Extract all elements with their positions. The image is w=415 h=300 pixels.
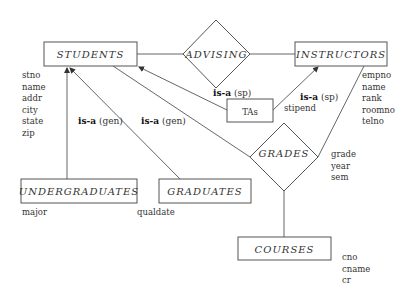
entity-tas[interactable]: TAs	[227, 99, 273, 122]
attr-rank: rank	[362, 93, 383, 103]
courses-attributes: cno cname cr	[342, 252, 370, 285]
er-diagram: STUDENTS stno name addr city state zip A…	[0, 0, 415, 300]
attr-year: year	[330, 161, 351, 171]
attr-major: major	[22, 207, 48, 217]
entity-students[interactable]: STUDENTS	[44, 42, 137, 66]
attr-grade: grade	[331, 149, 356, 159]
relationship-grades-label: GRADES	[259, 148, 310, 159]
attr-zip: zip	[22, 128, 35, 138]
entity-graduates[interactable]: GRADUATES	[159, 179, 251, 203]
isa-label-graduate: is-a (gen)	[141, 116, 186, 126]
attr-stipend: stipend	[284, 103, 316, 113]
entity-courses-label: COURSES	[255, 244, 315, 255]
entity-instructors-label: INSTRUCTORS	[295, 49, 386, 60]
instructors-attributes: empno name rank roomno telno	[362, 70, 395, 126]
relationship-grades[interactable]: GRADES	[250, 123, 318, 191]
isa-label-ta-students: is-a (sp)	[213, 88, 251, 98]
entity-students-label: STUDENTS	[57, 49, 125, 60]
attr-name: name	[22, 82, 46, 92]
entity-graduates-label: GRADUATES	[167, 186, 242, 197]
attr-cr: cr	[342, 275, 352, 285]
attr-stno: stno	[22, 70, 40, 80]
attr-sem: sem	[331, 172, 348, 182]
isa-label-undergrad: is-a (gen)	[78, 116, 123, 126]
entity-undergraduates[interactable]: UNDERGRADUATES	[19, 179, 139, 203]
entity-tas-label: TAs	[242, 107, 258, 117]
attr-cno: cno	[342, 252, 357, 262]
relationship-advising-label: ADVISING	[185, 49, 248, 60]
entity-undergraduates-label: UNDERGRADUATES	[19, 186, 139, 197]
students-attributes: stno name addr city state zip	[22, 70, 46, 138]
attr-telno: telno	[362, 116, 384, 126]
instructors-grades-line	[318, 66, 364, 157]
attr-roomno: roomno	[362, 105, 395, 115]
entity-instructors[interactable]: INSTRUCTORS	[295, 42, 387, 66]
attr-city: city	[22, 105, 38, 115]
attr-empno: empno	[362, 70, 391, 80]
entity-courses[interactable]: COURSES	[238, 237, 331, 260]
attr-cname: cname	[342, 264, 370, 274]
isa-label-ta-instructors: is-a (sp)	[300, 92, 338, 102]
attr-state: state	[22, 116, 43, 126]
attr-addr: addr	[22, 93, 43, 103]
attr-name: name	[362, 82, 386, 92]
relationship-advising[interactable]: ADVISING	[183, 20, 250, 88]
grades-attributes: grade year sem	[330, 149, 356, 182]
attr-qualdate: qualdate	[137, 207, 175, 217]
